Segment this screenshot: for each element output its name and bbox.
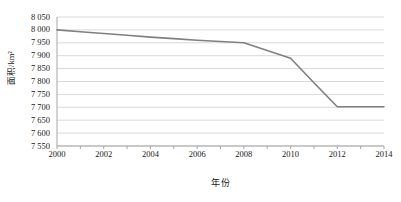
x-tick-label: 2010 bbox=[271, 150, 311, 159]
x-tick-label: 2006 bbox=[177, 150, 217, 159]
x-tick-label: 2000 bbox=[37, 150, 77, 159]
x-axis-title: 年份 bbox=[57, 176, 385, 189]
x-tick-label: 2014 bbox=[364, 150, 401, 159]
gridlines bbox=[57, 17, 384, 146]
x-tick-label: 2002 bbox=[84, 150, 124, 159]
x-tick-label: 2008 bbox=[224, 150, 264, 159]
x-tick-label: 2012 bbox=[317, 150, 357, 159]
x-tick-label: 2004 bbox=[130, 150, 170, 159]
plot-surface bbox=[0, 0, 401, 202]
line-chart: 面积/km² 8 0508 0007 9507 9007 8507 8007 7… bbox=[0, 0, 401, 202]
